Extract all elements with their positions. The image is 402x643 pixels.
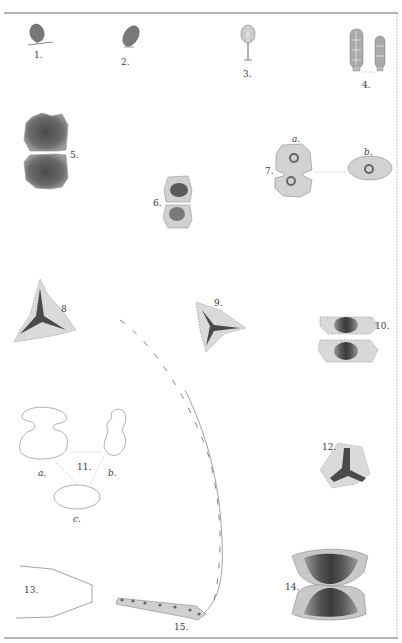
figure-3: 3. — [241, 25, 255, 79]
figure-12-label: 12. — [322, 442, 336, 452]
figure-2: 2. — [119, 23, 142, 67]
figure-5: 5. — [24, 113, 79, 189]
figure-7a-label: a. — [292, 134, 300, 144]
figure-11b-label: b. — [108, 468, 117, 478]
figure-7: 7. a. b. — [265, 134, 392, 197]
figure-12: 12. — [320, 442, 370, 488]
figure-15: 15. — [116, 598, 206, 632]
figure-11-label: 11. — [77, 462, 91, 472]
figure-14-label: 14. — [285, 582, 299, 592]
figure-10: 10. — [318, 317, 389, 362]
figure-15-filament — [120, 320, 222, 612]
figure-9-label: 9. — [214, 298, 223, 308]
figure-8-label: 8 — [61, 304, 67, 314]
figure-3-label: 3. — [243, 69, 252, 79]
figure-9: 9. — [196, 298, 246, 352]
figure-11c-label: c. — [73, 514, 81, 524]
figure-1-label: 1. — [34, 50, 43, 60]
figure-6-label: 6. — [153, 198, 162, 208]
botanical-plate: 1. 2. 3. 4. 5. 6. — [0, 0, 402, 643]
figure-13-label: 13. — [24, 585, 38, 595]
figure-6: 6. — [153, 176, 192, 228]
figure-11a-label: a. — [38, 468, 46, 478]
figure-2-label: 2. — [121, 57, 130, 67]
figure-11: a. 11. b. c. — [20, 407, 126, 524]
figure-7-label: 7. — [265, 166, 274, 176]
figure-15-label: 15. — [174, 622, 188, 632]
figure-14: 14. — [285, 549, 368, 620]
figure-13: 13. — [16, 566, 92, 618]
figure-10-label: 10. — [375, 321, 389, 331]
figure-7b-label: b. — [364, 147, 373, 157]
figure-1: 1. — [28, 22, 53, 60]
figure-5-label: 5. — [70, 150, 79, 160]
figure-8: 8 — [14, 279, 76, 342]
figure-4-label: 4. — [362, 80, 371, 90]
figure-4: 4. — [350, 29, 385, 90]
